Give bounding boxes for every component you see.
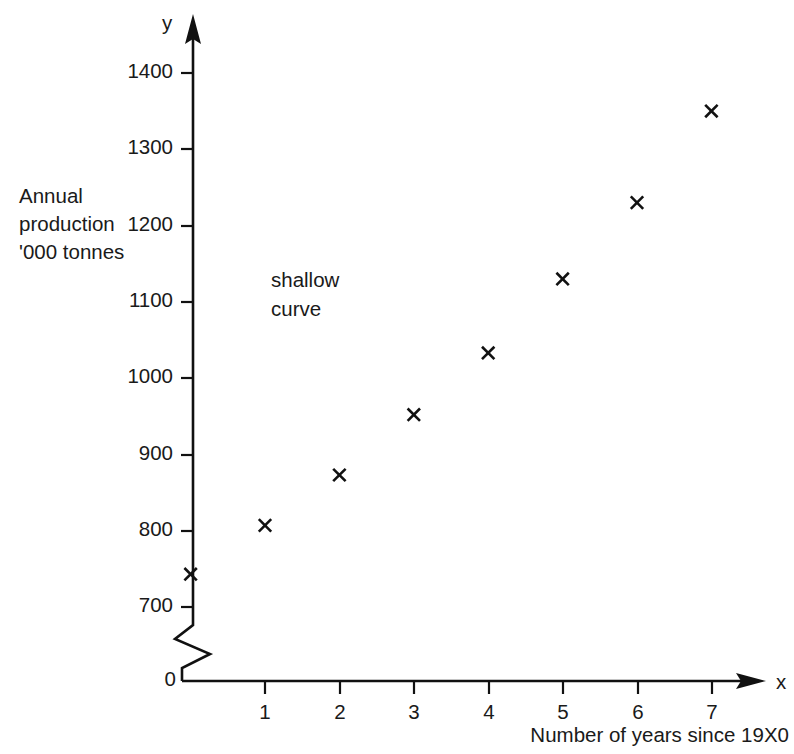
data-point-marker [184, 568, 196, 580]
x-tick-label-7: 7 [706, 700, 717, 723]
y-tick-label-1400: 1400 [127, 59, 173, 82]
data-point-marker [556, 273, 568, 285]
x-axis [182, 673, 766, 689]
x-tick-label-1: 1 [259, 700, 270, 723]
x-axis-title: Number of years since 19X0 [530, 723, 789, 746]
y-axis-tick-labels: 1400 1300 1200 1100 1000 900 800 700 [127, 59, 173, 616]
y-axis [175, 14, 210, 681]
x-axis-symbol: x [776, 670, 787, 693]
x-tick-label-6: 6 [632, 700, 643, 723]
y-axis-symbol: y [162, 11, 173, 34]
x-tick-label-4: 4 [483, 700, 494, 723]
data-point-markers [184, 105, 717, 581]
y-tick-label-1000: 1000 [127, 364, 173, 387]
y-axis-ticks [181, 73, 193, 607]
x-tick-label-5: 5 [557, 700, 568, 723]
data-point-marker [259, 519, 271, 531]
y-axis-break-zigzag [175, 603, 210, 681]
data-point-marker [631, 196, 643, 208]
y-tick-label-700: 700 [139, 593, 173, 616]
data-point-marker [705, 105, 717, 117]
data-point-marker [408, 409, 420, 421]
data-point-marker [333, 469, 345, 481]
y-tick-label-800: 800 [139, 517, 173, 540]
x-axis-tick-labels: 1 2 3 4 5 6 7 [259, 700, 717, 723]
x-tick-label-3: 3 [408, 700, 419, 723]
data-point-marker [482, 347, 494, 359]
scatter-chart: Annual production '000 tonnes shallow cu… [0, 0, 794, 754]
y-tick-label-1200: 1200 [127, 212, 173, 235]
y-tick-label-1300: 1300 [127, 135, 173, 158]
x-axis-ticks [265, 681, 712, 694]
origin-label: 0 [165, 667, 176, 690]
plot-area: 1400 1300 1200 1100 1000 900 800 700 1 2… [0, 0, 794, 754]
y-tick-label-900: 900 [139, 441, 173, 464]
y-tick-label-1100: 1100 [129, 288, 173, 311]
x-tick-label-2: 2 [334, 700, 345, 723]
